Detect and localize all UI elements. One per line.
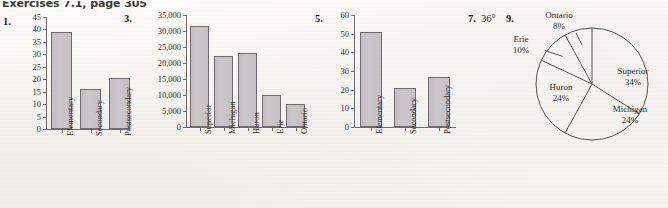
y-axis-tick: [183, 63, 186, 64]
y-axis-tick-label: 25: [0, 63, 41, 72]
y-axis-tick-label: 30,000: [121, 27, 181, 36]
y-axis-line: [354, 15, 355, 127]
x-axis-category-label: Erie: [276, 120, 285, 134]
y-axis-tick: [43, 117, 46, 118]
y-axis-tick-label: 60: [289, 11, 349, 20]
y-axis-tick-label: 40: [289, 48, 349, 57]
pie-slice-divider: [541, 60, 592, 84]
x-axis-category-label: Elementary: [66, 97, 75, 136]
y-axis-tick: [43, 104, 46, 105]
y-axis-tick: [351, 71, 354, 72]
y-axis-tick: [183, 127, 186, 128]
x-axis-category-label: Elementary: [375, 95, 384, 134]
x-axis-category-label: Superior: [204, 105, 213, 134]
pie-slice-name: Ontario: [545, 10, 573, 20]
pie-slice-divider: [565, 35, 592, 84]
pie-slice-label: Michigan24%: [598, 104, 662, 125]
y-axis-tick: [43, 79, 46, 80]
y-axis-tick: [351, 127, 354, 128]
x-axis-tick: [405, 128, 406, 131]
y-axis-tick-label: 30: [0, 50, 41, 59]
bar-chart-exercise-5: 0102030405060ElementarySecondaryPostseco…: [328, 10, 458, 205]
pie-slice-percent: 24%: [532, 93, 590, 104]
y-axis-tick-label: 35,000: [121, 11, 181, 20]
pie-slice-label: Superior34%: [602, 66, 664, 87]
y-axis-tick-label: 0: [0, 125, 41, 134]
x-axis-category-label: Postsecondary: [443, 85, 452, 134]
y-axis-tick-label: 35: [0, 38, 41, 47]
bar-chart-exercise-3: 05,00010,00015,00020,00025,00030,00035,0…: [136, 10, 311, 205]
pie-slice-name: Huron: [550, 82, 573, 92]
y-axis-tick: [183, 47, 186, 48]
scanned-answer-page: Exercises 7.1, page 305 1. 0510152025303…: [0, 0, 668, 208]
x-axis-tick: [272, 128, 273, 131]
page-header: Exercises 7.1, page 305: [2, 0, 147, 10]
y-axis-line: [186, 15, 187, 127]
pie-slice-name: Superior: [618, 66, 649, 76]
y-axis-tick-label: 20: [289, 86, 349, 95]
y-axis-tick: [43, 17, 46, 18]
y-axis-tick: [351, 90, 354, 91]
y-axis-tick-label: 20: [0, 75, 41, 84]
y-axis-tick: [351, 108, 354, 109]
exercise-7-answer: 36°: [481, 13, 496, 24]
y-axis-tick-label: 50: [289, 30, 349, 39]
pie-slice-percent: 10%: [494, 45, 548, 56]
exercise-number-7: 7.: [468, 13, 476, 24]
x-axis-category-label: Huron: [252, 112, 261, 134]
y-axis-tick: [43, 92, 46, 93]
y-axis-tick: [351, 52, 354, 53]
y-axis-tick-label: 20,000: [121, 59, 181, 68]
y-axis-tick-label: 10: [0, 100, 41, 109]
y-axis-tick: [351, 15, 354, 16]
y-axis-tick: [43, 42, 46, 43]
pie-slice-name: Erie: [514, 34, 529, 44]
y-axis-tick-label: 30: [289, 67, 349, 76]
pie-leader-line: [576, 33, 582, 45]
bar-chart-exercise-1: 051015202530354045ElementarySecondaryPos…: [16, 12, 126, 202]
x-axis-tick: [91, 130, 92, 133]
y-axis-tick-label: 10: [289, 104, 349, 113]
y-axis-tick-label: 5: [0, 113, 41, 122]
pie-slice-label: Erie10%: [494, 34, 548, 55]
y-axis-tick-label: 5,000: [121, 107, 181, 116]
pie-slice-name: Michigan: [613, 104, 648, 114]
pie-slice-label: Huron24%: [532, 82, 590, 103]
pie-slice-percent: 8%: [528, 21, 590, 32]
x-axis-tick: [62, 130, 63, 133]
x-axis-line: [46, 129, 130, 130]
y-axis-tick: [43, 67, 46, 68]
y-axis-line: [46, 17, 47, 129]
y-axis-tick-label: 0: [289, 123, 349, 132]
y-axis-tick-label: 10,000: [121, 91, 181, 100]
y-axis-tick: [351, 34, 354, 35]
x-axis-tick: [248, 128, 249, 131]
pie-slice-percent: 34%: [602, 77, 664, 88]
y-axis-tick-label: 40: [0, 25, 41, 34]
y-axis-tick-label: 15: [0, 88, 41, 97]
y-axis-tick: [183, 79, 186, 80]
pie-slice-label: Ontario8%: [528, 10, 590, 31]
y-axis-tick: [183, 31, 186, 32]
y-axis-tick: [183, 95, 186, 96]
y-axis-tick: [43, 129, 46, 130]
y-axis-tick: [183, 111, 186, 112]
y-axis-tick-label: 45: [0, 13, 41, 22]
exercise-number-9: 9.: [506, 13, 514, 24]
y-axis-tick-label: 15,000: [121, 75, 181, 84]
y-axis-tick: [43, 54, 46, 55]
y-axis-tick: [183, 15, 186, 16]
y-axis-tick: [43, 29, 46, 30]
x-axis-category-label: Secondary: [409, 98, 418, 134]
x-axis-tick: [224, 128, 225, 131]
x-axis-category-label: Michigan: [228, 101, 237, 134]
x-axis-tick: [200, 128, 201, 131]
y-axis-tick-label: 25,000: [121, 43, 181, 52]
pie-slice-percent: 24%: [598, 115, 662, 126]
pie-chart-exercise-9: Superior34%Michigan24%Huron24%Erie10%Ont…: [520, 8, 668, 158]
y-axis-tick-label: 0: [121, 123, 181, 132]
x-axis-tick: [439, 128, 440, 131]
x-axis-category-label: Secondary: [95, 100, 104, 136]
x-axis-tick: [371, 128, 372, 131]
